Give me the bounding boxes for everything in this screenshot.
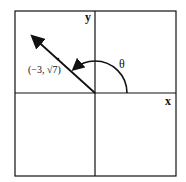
coordinate-diagram	[0, 0, 186, 182]
point-label: (−3, √7)	[28, 64, 61, 75]
x-axis-label: x	[165, 94, 171, 109]
point-dot	[57, 58, 60, 61]
y-axis-label: y	[85, 10, 91, 25]
theta-label: θ	[119, 57, 125, 72]
